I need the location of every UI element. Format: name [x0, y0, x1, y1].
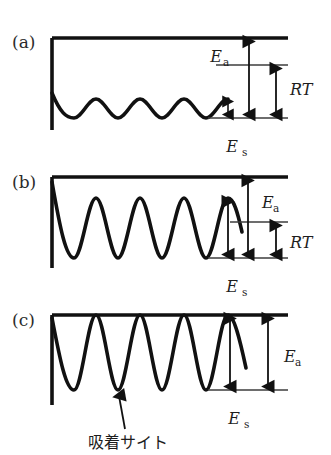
panel-a-Es-symbol: E	[225, 137, 238, 156]
panel-b: (b) E a RT E s	[12, 172, 314, 298]
panel-c-potential-curve	[52, 315, 246, 390]
panel-a-label: (a)	[12, 32, 35, 52]
panel-c-Es-subscript: s	[244, 418, 249, 430]
panel-b-label: (b)	[12, 172, 36, 192]
panel-c: (c) E s E a 吸着サイト	[12, 310, 301, 452]
panel-c-adsorption-site-arrow	[119, 396, 125, 429]
figure-canvas: (a) E a RT E s (b) E a	[0, 0, 331, 455]
panel-b-Es-symbol: E	[225, 277, 238, 296]
panel-a-Ea-symbol: E	[209, 47, 222, 66]
panel-a-Es-subscript: s	[242, 146, 247, 158]
panel-c-Es-symbol: E	[227, 409, 240, 428]
panel-b-Ea-subscript: a	[273, 202, 279, 214]
panel-c-adsorption-site-label: 吸着サイト	[88, 433, 168, 452]
panel-a-Ea-subscript: a	[223, 56, 229, 68]
panel-b-Es-subscript: s	[242, 286, 247, 298]
panel-c-Ea-subscript: a	[295, 356, 301, 368]
panel-a-potential-curve	[52, 93, 228, 118]
panel-a-RT-label: RT	[289, 80, 314, 99]
panel-b-RT-label: RT	[289, 233, 314, 252]
potential-energy-figure: (a) E a RT E s (b) E a	[0, 0, 331, 455]
panel-a: (a) E a RT E s	[12, 32, 314, 158]
panel-c-label: (c)	[12, 310, 35, 330]
panel-b-potential-curve	[52, 182, 242, 258]
